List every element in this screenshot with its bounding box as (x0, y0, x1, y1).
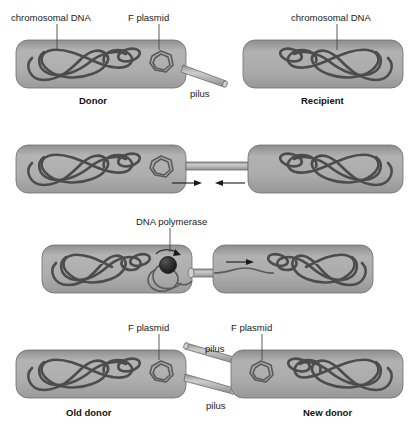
donor-pilus (181, 65, 228, 88)
old-donor-plasmid-label: F plasmid (128, 322, 169, 333)
conjugation-bridge (186, 162, 248, 170)
new-donor-plasmid-label: F plasmid (231, 322, 272, 333)
panel-1: chromosomal DNA F plasmid pilus Donor ch… (11, 12, 403, 106)
approach-arrow-left (215, 180, 245, 186)
panel3-bridge (188, 268, 214, 278)
donor-chromosome-label: chromosomal DNA (11, 12, 91, 23)
old-donor-caption: Old donor (66, 407, 112, 418)
pilus-label-upper: pilus (205, 343, 225, 354)
pilus-label-lower: pilus (206, 400, 226, 411)
panel-2 (16, 145, 403, 193)
new-donor-caption: New donor (303, 407, 352, 418)
donor-plasmid-label: F plasmid (128, 12, 169, 23)
dna-polymerase-label: DNA polymerase (136, 216, 207, 227)
recipient-chromosome-label: chromosomal DNA (291, 12, 371, 23)
donor-caption: Donor (79, 95, 107, 106)
panel-3: DNA polymerase (42, 216, 373, 293)
figure-canvas: chromosomal DNA F plasmid pilus Donor ch… (0, 0, 414, 431)
old-donor-pilus (184, 374, 236, 395)
conjugation-figure: chromosomal DNA F plasmid pilus Donor ch… (0, 0, 414, 431)
panel-4: pilus pilus F plasmid F plasmid Old dono… (16, 322, 403, 418)
dna-polymerase-blob (160, 257, 177, 274)
pilus-label-panel1: pilus (190, 88, 210, 99)
recipient-caption: Recipient (301, 95, 345, 106)
